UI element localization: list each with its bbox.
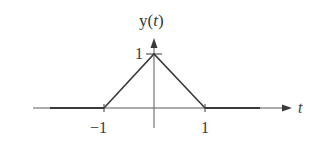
- y-axis-label: y(t): [139, 12, 164, 29]
- y-tick-label: 1: [135, 46, 143, 62]
- x-tick-label-neg1: −1: [90, 120, 107, 136]
- x-axis-label: t: [298, 100, 302, 116]
- y-axis-arrow-icon: [151, 38, 158, 48]
- x-tick-label-1: 1: [201, 120, 209, 136]
- x-axis-arrow-icon: [282, 105, 292, 112]
